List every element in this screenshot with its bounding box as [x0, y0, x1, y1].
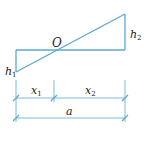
trapezoid-diagram: O h1 h2 x1 x2 a — [0, 0, 148, 148]
label-h1: h1 — [5, 65, 17, 79]
diagonal-line — [16, 14, 125, 72]
label-origin: O — [52, 36, 62, 50]
label-x1: x1 — [31, 84, 42, 98]
label-x2: x2 — [85, 84, 96, 98]
label-h2: h2 — [130, 28, 142, 42]
label-a: a — [66, 105, 73, 118]
